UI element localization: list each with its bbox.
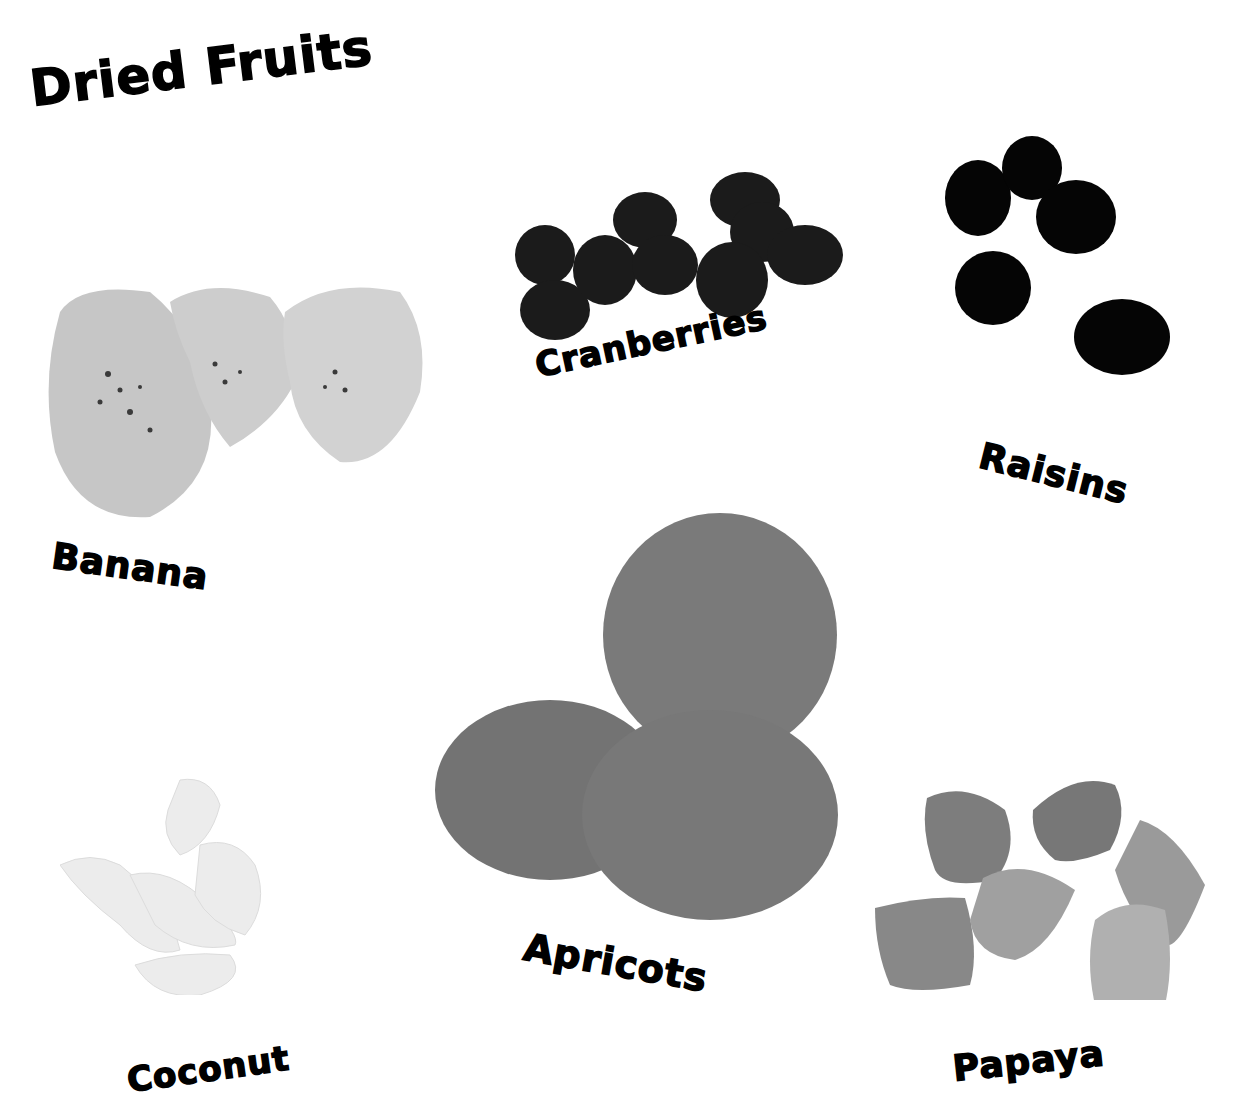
coconut-image — [60, 765, 290, 995]
page-title: Dried Fruits — [27, 18, 376, 118]
banana-label: Banana — [49, 535, 211, 598]
apricots-image — [425, 505, 845, 925]
raisins-label: Raisins — [975, 435, 1133, 512]
papaya-image — [875, 760, 1215, 1000]
papaya-label: Papaya — [951, 1032, 1107, 1089]
coconut-label: Coconut — [124, 1038, 291, 1100]
raisins-image — [930, 125, 1190, 385]
banana-image — [40, 272, 440, 532]
apricots-label: Apricots — [520, 925, 711, 1001]
